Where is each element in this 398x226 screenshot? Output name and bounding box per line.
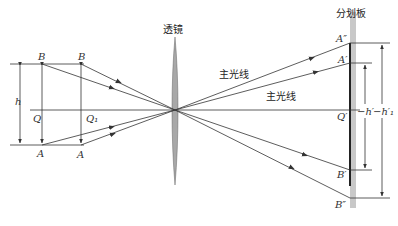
label-Q1: Q₁ [86, 113, 98, 124]
label-B-left: B [37, 51, 45, 62]
label-B-double-prime: B″ [334, 199, 346, 210]
label-Q: Q [33, 113, 41, 124]
ray-B-prime [175, 110, 350, 170]
chief-ray-label-1: 主光线 [219, 68, 249, 80]
label-A-double-prime: A″ [335, 33, 347, 44]
optical-diagram: 透镜 分划板 主光线 主光线 B B A A h Q Q₁ A″ A′ Q′ B… [0, 0, 398, 226]
chief-ray-label-2: 主光线 [266, 90, 296, 102]
label-h: h [15, 96, 21, 107]
ray-A-left [42, 110, 175, 145]
label-A-right: A [76, 149, 84, 160]
ray-B-double-prime [175, 110, 350, 198]
reticle-title: 分划板 [336, 7, 366, 19]
label-Q-prime: Q′ [337, 111, 348, 122]
chief-ray-A-double-prime [175, 43, 350, 110]
chief-ray-A-prime [175, 63, 350, 110]
label-h1-prime: −h′₁ [373, 106, 394, 117]
label-A-prime: A′ [337, 54, 348, 65]
ray-B-right [81, 64, 175, 110]
label-B-prime: B′ [336, 169, 347, 180]
label-A-left: A [36, 148, 44, 159]
lens-title: 透镜 [163, 23, 183, 35]
ray-B-left [42, 64, 175, 110]
label-B-right: B [77, 51, 85, 62]
